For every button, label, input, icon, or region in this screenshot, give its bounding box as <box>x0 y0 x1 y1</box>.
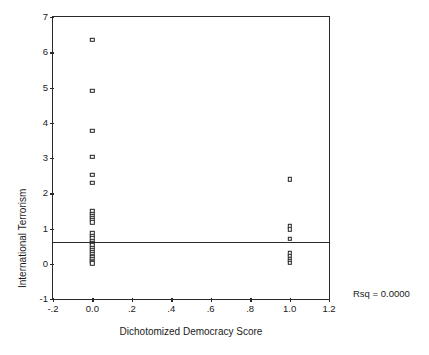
data-point-marker <box>287 260 291 264</box>
x-axis-title: Dichotomized Democracy Score <box>52 326 330 337</box>
y-tick-label: 5 <box>43 83 48 93</box>
x-tick-mark <box>92 298 93 302</box>
x-tick-label: 0.0 <box>86 304 99 314</box>
y-tick-mark <box>50 229 54 230</box>
x-tick-label: .8 <box>246 304 254 314</box>
data-point-marker <box>287 227 291 231</box>
x-tick-label: .2 <box>128 304 136 314</box>
y-tick-mark <box>50 123 54 124</box>
y-tick-label: 1 <box>43 224 48 234</box>
plot-area: -101234567 -.20.0.2.4.6.81.01.2 <box>52 16 330 300</box>
y-tick-mark <box>50 88 54 89</box>
x-tick-mark <box>250 298 251 302</box>
y-tick-mark <box>50 264 54 265</box>
x-tick-label: -.2 <box>47 304 58 314</box>
x-tick-mark <box>53 298 54 302</box>
data-point-marker <box>90 128 94 132</box>
regression-line <box>53 242 329 243</box>
y-axis-title: International Terrorism <box>17 189 28 288</box>
y-tick-label: 6 <box>43 48 48 58</box>
y-tick-label: 4 <box>43 118 48 128</box>
x-tick-label: .4 <box>167 304 175 314</box>
y-tick-label: 0 <box>43 259 48 269</box>
y-tick-mark <box>50 193 54 194</box>
data-point-marker <box>287 237 291 241</box>
data-point-marker <box>90 155 94 159</box>
data-point-marker <box>90 261 94 265</box>
x-tick-label: 1.0 <box>283 304 296 314</box>
y-tick-mark <box>50 17 54 18</box>
y-tick-mark <box>50 158 54 159</box>
data-point-marker <box>90 173 94 177</box>
x-tick-mark <box>132 298 133 302</box>
x-tick-mark <box>290 298 291 302</box>
data-point-marker <box>90 220 94 224</box>
x-tick-mark <box>171 298 172 302</box>
data-point-marker <box>90 180 94 184</box>
x-tick-label: 1.2 <box>322 304 335 314</box>
x-tick-mark <box>211 298 212 302</box>
scatter-plot-figure: -101234567 -.20.0.2.4.6.81.01.2 Internat… <box>0 0 429 355</box>
y-tick-label: 2 <box>43 189 48 199</box>
y-tick-label: 3 <box>43 153 48 163</box>
rsq-annotation: Rsq = 0.0000 <box>353 288 410 299</box>
data-point-marker <box>90 89 94 93</box>
y-tick-label: 7 <box>43 12 48 22</box>
y-tick-mark <box>50 52 54 53</box>
x-tick-label: .6 <box>207 304 215 314</box>
data-point-marker <box>90 38 94 42</box>
data-point-marker <box>287 177 291 181</box>
x-tick-mark <box>329 298 330 302</box>
